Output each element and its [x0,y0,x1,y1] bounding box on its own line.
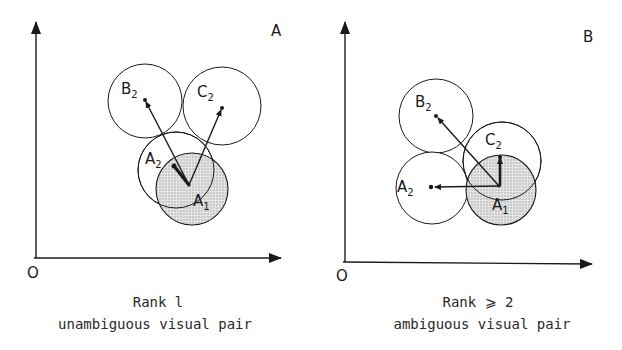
diagram-canvas: O A B2 C2 A2 A1 Rank l unambiguous visua… [0,0,622,350]
point-a2 [429,185,433,189]
caption-description: ambiguous visual pair [393,316,570,332]
panel-letter: B [583,28,593,46]
panel-b: O B B2 C2 A2 A1 Rank ⩾ 2 ambiguous visua… [336,22,593,332]
point-a2 [172,164,177,169]
point-b2 [434,114,438,118]
caption-rank: Rank l [133,294,184,310]
vector-a1-to-a2 [435,186,499,187]
point-c2 [498,155,502,159]
panel-a: O A B2 C2 A2 A1 Rank l unambiguous visua… [27,22,282,332]
origin-label: O [336,267,348,285]
point-a1 [187,183,190,186]
origin-label: O [27,264,39,282]
point-c2 [220,106,224,110]
panel-letter: A [271,22,282,40]
caption-description: unambiguous visual pair [58,316,252,332]
point-b2 [143,98,147,102]
point-a1 [497,184,500,187]
caption-rank: Rank ⩾ 2 [442,294,513,310]
circle-a1-shaded [156,153,228,225]
x-axis [343,262,592,264]
